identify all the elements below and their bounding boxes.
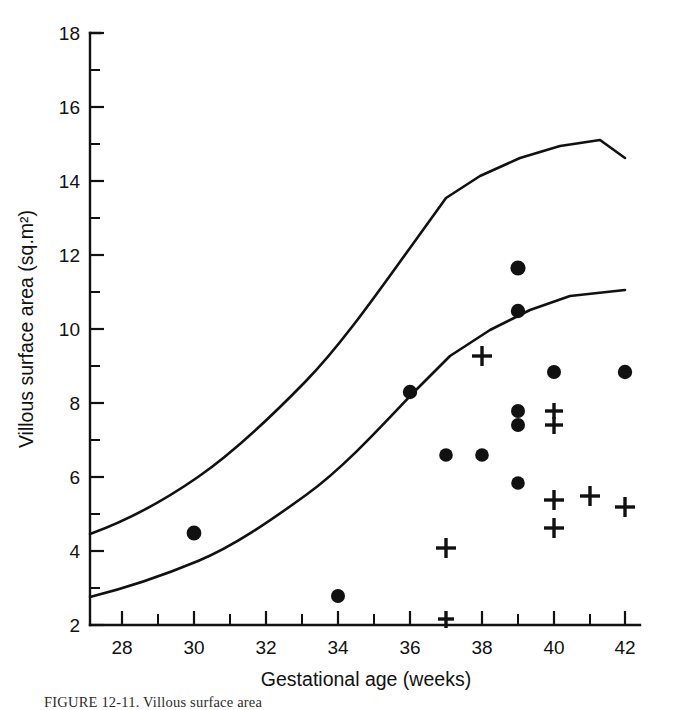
x-tick-label-28: 28 xyxy=(111,637,132,658)
data-point-circle xyxy=(511,304,525,318)
figure-container: 2 4 6 8 10 12 14 16 18 28 30 32 34 36 38… xyxy=(0,0,682,710)
y-tick-labels: 2 4 6 8 10 12 14 16 18 xyxy=(59,23,81,636)
data-point-circle xyxy=(510,260,525,275)
x-tick-label-34: 34 xyxy=(327,637,349,658)
y-tick-label-14: 14 xyxy=(59,171,81,192)
y-tick-label-6: 6 xyxy=(69,467,80,488)
lower-reference-curve xyxy=(90,290,625,597)
figure-caption-band: FIGURE 12-11. Villous surface area xyxy=(0,694,682,710)
y-axis-major-ticks xyxy=(90,33,104,625)
data-point-plus xyxy=(545,403,563,419)
scatter-plot: 2 4 6 8 10 12 14 16 18 28 30 32 34 36 38… xyxy=(0,0,682,710)
data-point-circle xyxy=(618,365,632,379)
x-tick-labels: 28 30 32 34 36 38 40 42 xyxy=(111,637,635,658)
data-point-plus xyxy=(580,486,600,506)
x-tick-label-40: 40 xyxy=(543,637,564,658)
data-point-plus xyxy=(436,538,456,558)
x-tick-label-36: 36 xyxy=(399,637,420,658)
x-axis-minor-ticks xyxy=(158,614,590,625)
x-axis-title: Gestational age (weeks) xyxy=(261,668,471,690)
plus-data-points xyxy=(436,346,635,628)
data-point-circle xyxy=(439,448,453,462)
x-tick-label-38: 38 xyxy=(471,637,492,658)
data-point-plus xyxy=(472,346,492,366)
data-point-circle xyxy=(511,476,525,490)
y-tick-label-2: 2 xyxy=(69,615,80,636)
data-point-plus xyxy=(545,417,563,434)
x-tick-label-30: 30 xyxy=(183,637,204,658)
y-tick-label-8: 8 xyxy=(69,393,80,414)
figure-caption: FIGURE 12-11. Villous surface area xyxy=(44,694,262,710)
x-tick-label-42: 42 xyxy=(614,637,635,658)
axes-group xyxy=(90,33,640,625)
y-tick-label-18: 18 xyxy=(59,23,80,44)
data-point-circle xyxy=(187,526,202,541)
data-point-plus xyxy=(544,490,564,510)
data-point-circle xyxy=(511,418,525,432)
data-point-plus xyxy=(544,518,564,538)
x-tick-label-32: 32 xyxy=(255,637,276,658)
y-tick-label-4: 4 xyxy=(69,541,80,562)
upper-reference-curve xyxy=(90,140,625,534)
data-point-circle xyxy=(403,385,417,399)
data-point-circle xyxy=(511,404,525,418)
y-tick-label-16: 16 xyxy=(59,97,80,118)
data-point-circle xyxy=(475,448,489,462)
y-tick-label-10: 10 xyxy=(59,319,80,340)
y-tick-label-12: 12 xyxy=(59,245,80,266)
data-point-plus xyxy=(615,497,635,517)
data-point-circle xyxy=(331,589,345,603)
y-axis-title: Villous surface area (sq.m²) xyxy=(15,210,37,448)
data-point-circle xyxy=(547,365,561,379)
